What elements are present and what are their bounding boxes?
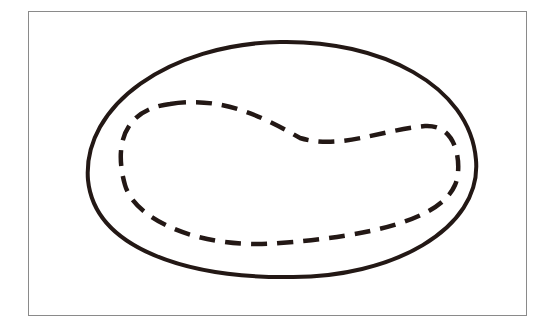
frame-border [29,12,527,316]
diagram-canvas [0,0,550,332]
